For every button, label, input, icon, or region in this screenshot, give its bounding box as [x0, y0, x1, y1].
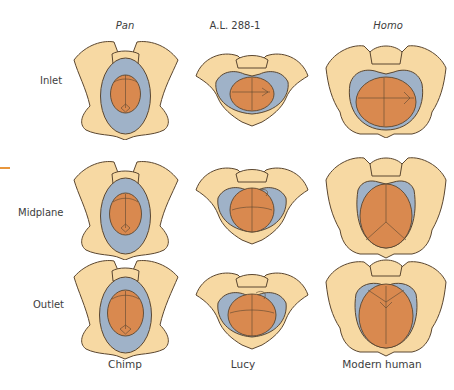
pelvis-human-inlet: [322, 38, 450, 138]
row-label-outlet: Outlet: [33, 299, 64, 310]
margin-tick-mark: [0, 167, 10, 169]
caption-modern-human: Modern human: [342, 358, 421, 370]
pelvis-human-outlet: [322, 258, 450, 358]
pelvis-human-midplane: [322, 150, 450, 260]
pelvis-chimp-inlet: [68, 30, 183, 140]
caption-lucy: Lucy: [231, 358, 255, 370]
column-heading-al-288-1: A.L. 288-1: [210, 20, 261, 31]
pelvis-chimp-midplane: [68, 150, 183, 260]
pelvis-lucy-midplane: [192, 160, 312, 250]
column-heading-homo: Homo: [373, 20, 403, 31]
pelvis-chimp-outlet: [68, 255, 183, 360]
pelvis-lucy-outlet: [192, 265, 312, 355]
pelvis-lucy-inlet: [192, 40, 312, 130]
row-label-inlet: Inlet: [40, 75, 62, 86]
row-label-midplane: Midplane: [18, 207, 64, 218]
caption-chimp: Chimp: [108, 358, 142, 370]
